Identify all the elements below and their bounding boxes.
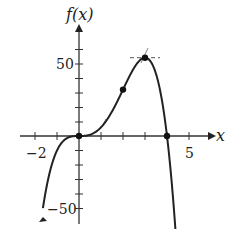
y-axis-label: f(x): [65, 5, 93, 24]
x-tick-label-min: −2: [26, 145, 47, 161]
point-maximum: [142, 55, 148, 61]
x-axis-label: x: [216, 126, 225, 145]
point-origin: [76, 133, 82, 139]
function-graph: f(x) x −2 5 50 −50: [0, 0, 237, 229]
y-tick-label-pos: 50: [56, 56, 74, 72]
function-curve-left-arrow: [39, 217, 47, 222]
point-inflection: [120, 86, 126, 92]
x-tick-label-max: 5: [185, 145, 194, 161]
y-tick-label-neg: −50: [47, 201, 77, 217]
point-root: [164, 133, 170, 139]
